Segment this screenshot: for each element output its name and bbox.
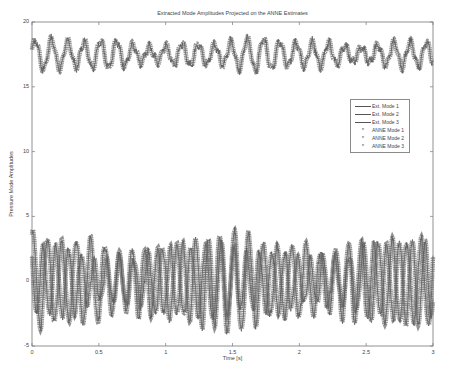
legend-item-ext-mode-1: Ext. Mode 1 — [354, 102, 406, 110]
line-swatch-icon — [355, 114, 371, 115]
x-tick-label: 1 — [160, 349, 172, 355]
y-tick-label: 5 — [16, 212, 29, 218]
y-tick-label: 20 — [16, 18, 29, 24]
x-tick-label: 0 — [26, 349, 38, 355]
legend: Ext. Mode 1 Ext. Mode 2 Ext. Mode 3 *ANN… — [350, 99, 410, 153]
figure: Extracted Mode Amplitudes Projected on t… — [0, 0, 449, 376]
y-tick-label: 10 — [16, 148, 29, 154]
star-marker-icon: * — [362, 143, 364, 149]
x-tick-label: 0.5 — [93, 349, 105, 355]
legend-item-anne-mode-1: *ANNE Mode 1 — [354, 126, 406, 134]
plot-area — [0, 0, 449, 376]
star-marker-icon: * — [362, 127, 364, 133]
y-tick-label: 0 — [16, 277, 29, 283]
star-marker-icon: * — [362, 135, 364, 141]
x-tick-label: 1.5 — [227, 349, 239, 355]
legend-item-anne-mode-3: *ANNE Mode 3 — [354, 142, 406, 150]
x-axis-label: Time [s] — [32, 355, 433, 361]
legend-item-ext-mode-3: Ext. Mode 3 — [354, 118, 406, 126]
legend-item-anne-mode-2: *ANNE Mode 2 — [354, 134, 406, 142]
x-tick-label: 2.5 — [360, 349, 372, 355]
chart-title: Extracted Mode Amplitudes Projected on t… — [32, 10, 433, 16]
x-tick-label: 2 — [293, 349, 305, 355]
line-swatch-icon — [355, 106, 371, 107]
y-tick-label: 15 — [16, 83, 29, 89]
y-axis-label: Pressure Mode Amplitudes — [8, 151, 14, 217]
y-tick-label: -5 — [16, 342, 29, 348]
x-tick-label: 3 — [427, 349, 439, 355]
line-swatch-icon — [355, 122, 371, 123]
legend-item-ext-mode-2: Ext. Mode 2 — [354, 110, 406, 118]
